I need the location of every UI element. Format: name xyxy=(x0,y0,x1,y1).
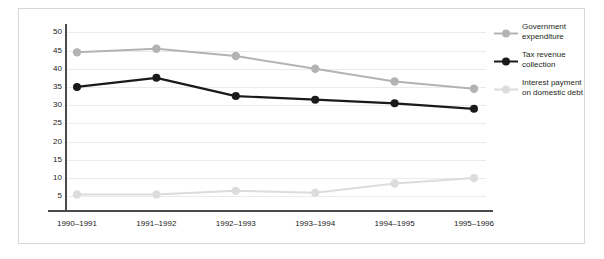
legend-item[interactable]: Tax revenue collection xyxy=(494,50,588,69)
data-point xyxy=(470,85,478,93)
legend-label: Interest payment on domestic debt xyxy=(522,78,588,97)
data-point xyxy=(232,52,240,60)
data-point xyxy=(311,96,319,104)
line-chart: 5101520253035404550 1990–19911991–199219… xyxy=(0,0,604,259)
legend-item[interactable]: Government expenditure xyxy=(494,22,588,41)
data-point xyxy=(73,48,81,56)
data-point xyxy=(73,83,81,91)
data-point xyxy=(152,190,160,198)
data-point xyxy=(470,105,478,113)
legend-marker-icon xyxy=(494,80,518,89)
chart-legend: Government expenditureTax revenue collec… xyxy=(494,22,588,106)
data-point xyxy=(152,45,160,53)
data-point xyxy=(311,65,319,73)
data-point xyxy=(232,187,240,195)
data-point xyxy=(390,179,398,187)
series-line xyxy=(77,49,474,89)
data-point xyxy=(152,74,160,82)
data-point xyxy=(390,77,398,85)
legend-label: Government expenditure xyxy=(522,22,588,41)
data-point xyxy=(73,190,81,198)
data-point xyxy=(232,92,240,100)
legend-marker-icon xyxy=(494,24,518,33)
legend-item[interactable]: Interest payment on domestic debt xyxy=(494,78,588,97)
series-line xyxy=(77,178,474,194)
legend-label: Tax revenue collection xyxy=(522,50,588,69)
data-point xyxy=(391,99,399,107)
data-point xyxy=(311,188,319,196)
legend-marker-icon xyxy=(494,52,518,61)
data-point xyxy=(470,174,478,182)
